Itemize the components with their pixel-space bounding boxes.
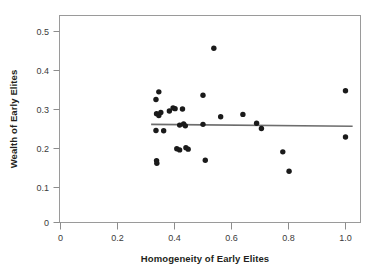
data-point: [203, 158, 208, 163]
data-point: [180, 106, 185, 111]
x-tick-label: 0.2: [111, 233, 124, 243]
y-tick-label: 0: [44, 218, 49, 228]
data-point: [218, 114, 223, 119]
data-point: [177, 147, 182, 152]
x-tick-label: 0.4: [168, 233, 181, 243]
scatter-chart: 0.5 0.4 0.3 0.2 0.1 0 0 0.2 0.4 0.6 0.8 …: [0, 0, 377, 274]
data-point: [161, 128, 166, 133]
chart-background: [0, 0, 377, 274]
data-point: [211, 46, 216, 51]
data-point: [183, 123, 188, 128]
data-point: [200, 122, 205, 127]
data-point: [280, 149, 285, 154]
data-point: [343, 134, 348, 139]
data-point: [154, 161, 159, 166]
data-point: [153, 97, 158, 102]
x-axis-title: Homogeneity of Early Elites: [141, 253, 269, 264]
x-tick-label: 0: [58, 233, 63, 243]
data-point: [254, 120, 259, 125]
data-point: [172, 106, 177, 111]
x-tick-label: 0.6: [225, 233, 238, 243]
data-point: [343, 88, 348, 93]
y-tick-label: 0.4: [36, 66, 49, 76]
x-tick-label: 0.8: [282, 233, 295, 243]
data-point: [158, 110, 163, 115]
y-tick-label: 0.3: [36, 105, 49, 115]
y-tick-label: 0.5: [36, 27, 49, 37]
data-point: [200, 93, 205, 98]
data-point: [185, 146, 190, 151]
data-point: [240, 112, 245, 117]
y-tick-label: 0.2: [36, 144, 49, 154]
data-point: [259, 126, 264, 131]
data-point: [156, 89, 161, 94]
data-point: [286, 169, 291, 174]
y-tick-label: 0.1: [36, 183, 49, 193]
y-axis-title: Wealth of Early Elites: [8, 70, 19, 169]
data-point: [153, 128, 158, 133]
x-tick-label: 1.0: [339, 233, 352, 243]
